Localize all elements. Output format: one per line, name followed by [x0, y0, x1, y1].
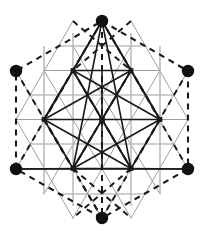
marker-upper-right — [129, 68, 134, 73]
node-top[interactable] — [96, 15, 108, 27]
node-lower-right[interactable] — [182, 163, 194, 175]
node-upper-left[interactable] — [10, 65, 22, 77]
marker-mid-left — [42, 117, 47, 122]
solid-lowleftv-to-lowleft — [16, 169, 73, 170]
node-upper-right[interactable] — [182, 65, 194, 77]
marker-lower-left — [71, 166, 76, 171]
marker-mid-right — [158, 117, 163, 122]
marker-center — [99, 117, 105, 123]
solid-lowrightv-to-lowright — [131, 169, 188, 170]
figure-container — [0, 0, 203, 238]
hexagonal-lattice-figure — [0, 0, 203, 238]
marker-lower-right — [129, 166, 134, 171]
marker-upper-left — [71, 68, 76, 73]
node-lower-left[interactable] — [10, 163, 22, 175]
node-bottom[interactable] — [96, 212, 108, 224]
